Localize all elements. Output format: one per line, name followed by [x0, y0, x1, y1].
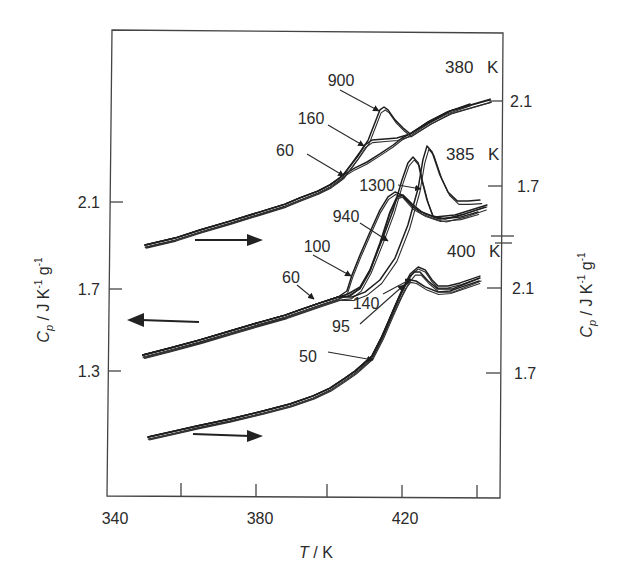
- leader-arrow-icon: [297, 285, 314, 299]
- cp-subscript: p: [586, 320, 598, 327]
- leader-arrow-icon: [340, 90, 379, 111]
- curves-group: [143, 99, 492, 440]
- leader-arrow-icon: [313, 255, 351, 276]
- annotation-label: 900: [328, 72, 355, 89]
- direction-arrow-380k: [195, 234, 263, 246]
- arrow-left-icon: [141, 320, 199, 322]
- left-tick-label: 1.3: [78, 363, 100, 380]
- left-y-axis-title: Cp / J K-1 g-1: [33, 257, 55, 343]
- plot-frame: [107, 30, 503, 498]
- x-tick-label: 340: [102, 510, 129, 527]
- arrow-right-icon: [193, 434, 250, 436]
- annotation-label: 50: [299, 348, 317, 365]
- annotation-label: 100: [304, 238, 331, 255]
- annotation-label: 160: [298, 110, 325, 127]
- right-axis-tick-labels: 2.1 1.7 2.1 1.7: [510, 93, 539, 382]
- leader-arrow-icon: [328, 125, 364, 146]
- annotation-label: 60: [282, 269, 300, 286]
- x-axis-tick-labels: 340 380 420: [102, 510, 419, 527]
- x-axis-ticks: [181, 483, 477, 498]
- x-tick-label: 420: [392, 510, 419, 527]
- x-axis-title: T / K: [299, 544, 333, 561]
- left-axis-tick-labels: 2.1 1.7 1.3: [78, 194, 100, 380]
- arrow-right-head-icon: [247, 234, 263, 246]
- leader-arrow-icon: [328, 352, 373, 360]
- unit-part: g: [578, 261, 595, 274]
- right-upper-tick-label: 2.1: [510, 93, 532, 110]
- unit-part: g: [35, 266, 52, 279]
- annotation-label: 940: [333, 208, 360, 225]
- x-axis-unit: / K: [309, 544, 333, 561]
- right-lower-tick-label: 2.1: [512, 280, 534, 297]
- arrow-right-head-icon: [247, 430, 263, 442]
- right-upper-tick-label: 1.7: [517, 178, 539, 195]
- group-label-385k: 385 K: [446, 145, 500, 164]
- cp-symbol: C: [35, 331, 52, 343]
- unit-exponent: -1: [576, 252, 587, 261]
- right-y-axis-title: Cp / J K-1 g-1: [576, 252, 598, 338]
- unit-part: / J K: [578, 283, 595, 320]
- arrow-left-head-icon: [127, 313, 144, 327]
- curve-trace-shadow: [143, 197, 487, 357]
- cp-subscript: p: [43, 325, 55, 332]
- curve-trace-shadow: [144, 160, 486, 358]
- annotation-label: 60: [276, 142, 294, 159]
- chart-canvas: 2.1 1.7 1.3 2.1 1.7 2.1 1.7 3: [0, 0, 625, 583]
- figure: 2.1 1.7 1.3 2.1 1.7 2.1 1.7 3: [0, 0, 625, 583]
- group-label-380k: 380 K: [445, 58, 499, 77]
- right-lower-tick-label: 1.7: [514, 365, 536, 382]
- group-label-400k: 400 K: [447, 242, 501, 261]
- annotation-label: 1300: [359, 177, 395, 194]
- annotation-label: 140: [353, 295, 380, 312]
- annotation-leaders: [297, 90, 421, 360]
- left-tick-label: 1.7: [78, 281, 100, 298]
- right-axis-ticks: [486, 101, 514, 373]
- left-tick-label: 2.1: [78, 194, 100, 211]
- cp-symbol: C: [578, 326, 595, 338]
- x-tick-label: 380: [247, 510, 274, 527]
- leader-arrow-icon: [307, 154, 344, 176]
- direction-arrow-400k: [193, 430, 263, 442]
- unit-exponent: -1: [33, 257, 44, 266]
- unit-part: / J K: [35, 288, 52, 325]
- annotation-label: 95: [332, 318, 350, 335]
- direction-arrow-385k: [127, 313, 199, 327]
